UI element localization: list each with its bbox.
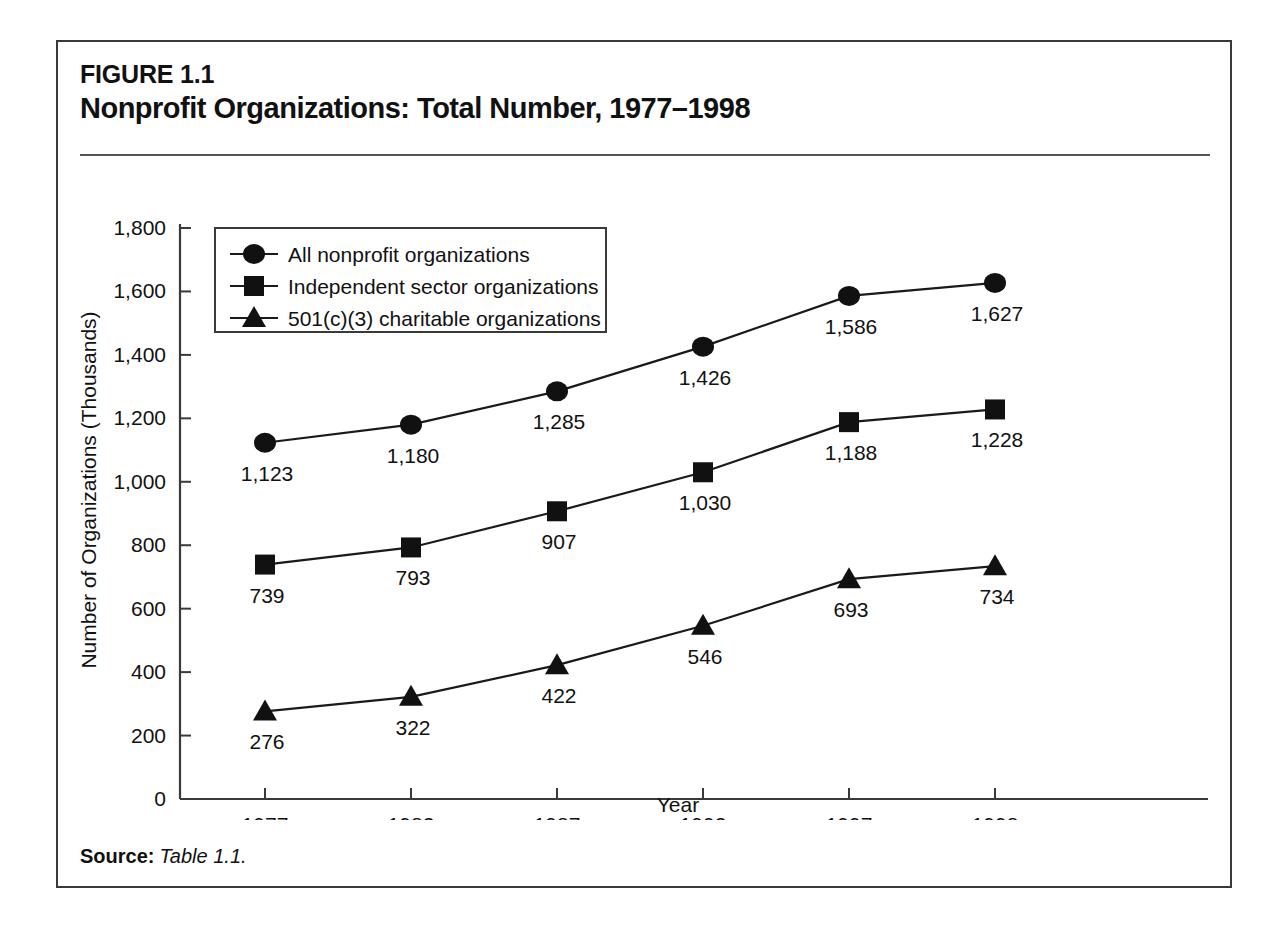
y-tick-label: 0	[154, 787, 166, 810]
series-line-1	[265, 409, 995, 564]
y-tick-label: 1,200	[113, 406, 166, 429]
data-label-1-2: 907	[541, 530, 576, 553]
y-axis: 02004006008001,0001,2001,4001,6001,800	[113, 216, 191, 810]
legend-label-1: Independent sector organizations	[288, 275, 599, 298]
source-text: Table 1.1.	[159, 845, 246, 867]
data-label-1-4: 1,188	[825, 441, 878, 464]
y-tick-label: 800	[131, 533, 166, 556]
data-point-0-1	[400, 415, 422, 435]
data-label-0-2: 1,285	[533, 410, 586, 433]
data-point-2-3	[691, 614, 715, 635]
data-label-1-3: 1,030	[679, 491, 732, 514]
data-point-2-5	[983, 554, 1007, 575]
title-divider	[80, 154, 1210, 156]
data-point-0-3	[692, 337, 714, 357]
y-tick-label: 1,000	[113, 470, 166, 493]
y-tick-label: 200	[131, 724, 166, 747]
y-tick-label: 400	[131, 660, 166, 683]
chart-legend: All nonprofit organizationsIndependent s…	[215, 228, 606, 332]
x-tick-label: 1987	[534, 813, 581, 820]
data-label-2-4: 693	[833, 598, 868, 621]
figure-header: FIGURE 1.1 Nonprofit Organizations: Tota…	[80, 60, 1210, 126]
data-point-1-4	[839, 412, 859, 432]
data-point-0-4	[838, 286, 860, 306]
figure-title: Nonprofit Organizations: Total Number, 1…	[80, 91, 1210, 126]
data-label-1-5: 1,228	[971, 428, 1024, 451]
legend-marker-circle	[243, 244, 265, 264]
data-point-0-2	[546, 381, 568, 401]
series-layer: 1,1231,1801,2851,4261,5861,6277397939071…	[241, 273, 1024, 754]
x-tick-label: 1977	[242, 813, 289, 820]
data-label-2-1: 322	[395, 716, 430, 739]
data-label-0-0: 1,123	[241, 462, 294, 485]
chart-canvas: 02004006008001,0001,2001,4001,6001,800 1…	[58, 160, 1230, 820]
y-tick-label: 1,400	[113, 343, 166, 366]
data-point-1-5	[985, 399, 1005, 419]
y-tick-label: 1,600	[113, 279, 166, 302]
y-axis-title: Number of Organizations (Thousands)	[77, 311, 100, 668]
data-label-2-3: 546	[687, 645, 722, 668]
data-label-1-0: 739	[249, 584, 284, 607]
x-axis-title: Year	[657, 793, 699, 816]
data-point-0-0	[254, 433, 276, 453]
data-point-0-5	[984, 273, 1006, 293]
data-point-1-0	[255, 555, 275, 575]
y-tick-label: 600	[131, 597, 166, 620]
data-point-1-3	[693, 462, 713, 482]
data-label-0-3: 1,426	[679, 366, 732, 389]
series-line-2	[265, 566, 995, 711]
data-label-2-0: 276	[249, 730, 284, 753]
data-point-1-1	[401, 537, 421, 557]
source-note: Source:Table 1.1.	[80, 845, 247, 868]
y-tick-label: 1,800	[113, 216, 166, 239]
data-point-1-2	[547, 501, 567, 521]
data-label-0-5: 1,627	[971, 302, 1024, 325]
x-tick-label: 1997	[826, 813, 873, 820]
source-label: Source:	[80, 845, 154, 867]
data-label-2-5: 734	[979, 585, 1014, 608]
data-label-1-1: 793	[395, 566, 430, 589]
x-tick-label: 1998	[972, 813, 1019, 820]
x-tick-label: 1982	[388, 813, 435, 820]
figure-number: FIGURE 1.1	[80, 60, 1210, 89]
legend-label-0: All nonprofit organizations	[288, 243, 530, 266]
legend-marker-square	[244, 276, 264, 296]
figure-frame: FIGURE 1.1 Nonprofit Organizations: Tota…	[56, 40, 1232, 888]
line-chart: 02004006008001,0001,2001,4001,6001,800 1…	[58, 160, 1230, 820]
data-label-0-1: 1,180	[387, 444, 440, 467]
data-label-0-4: 1,586	[825, 315, 878, 338]
data-label-2-2: 422	[541, 684, 576, 707]
legend-label-2: 501(c)(3) charitable organizations	[288, 307, 601, 330]
